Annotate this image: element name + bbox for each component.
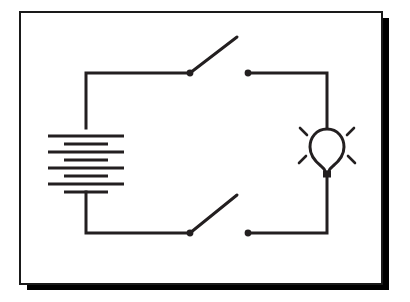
circuit-diagram [0,0,410,302]
frame-right-bar [382,18,389,290]
illustration-canvas [0,0,410,302]
bulb-base-neck [324,171,331,177]
switch-top-pivot-terminal[interactable] [187,70,194,77]
switch-top-contact-terminal[interactable] [245,70,252,77]
switch-bottom-pivot-terminal[interactable] [187,230,194,237]
switch-bottom-contact-terminal[interactable] [245,230,252,237]
